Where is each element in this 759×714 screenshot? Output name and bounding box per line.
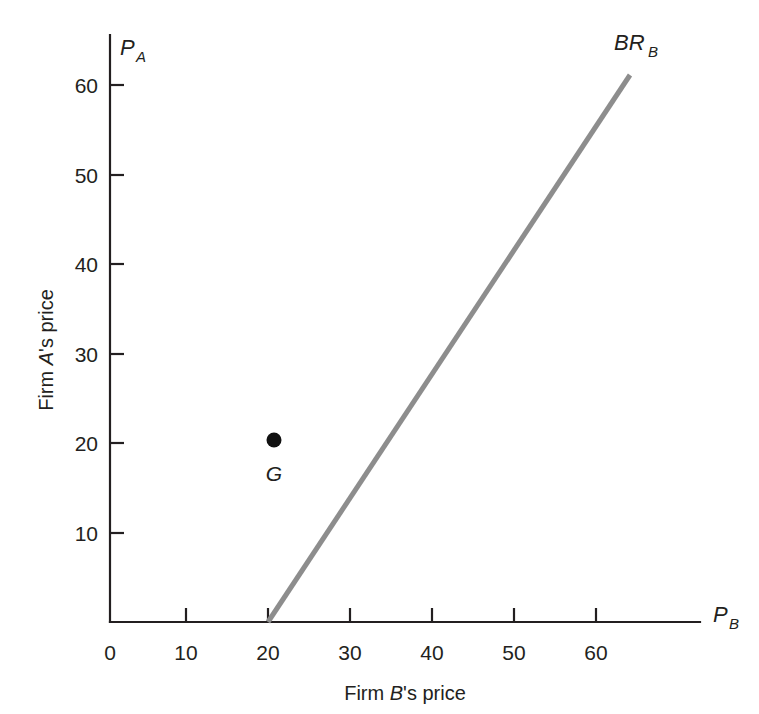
y-tick-label-30: 30	[75, 343, 98, 366]
br-b-curve	[268, 75, 630, 622]
x-tick-label-10: 10	[174, 641, 197, 664]
x-tick-label-60: 60	[584, 641, 607, 664]
x-axis-title-emphasis: B	[390, 682, 403, 704]
y-axis-ticks	[110, 85, 124, 533]
br-b-label-subscript: B	[648, 43, 658, 60]
svg-text:Firm A's price: Firm A's price	[35, 289, 57, 411]
x-axis-variable-subscript: B	[729, 615, 739, 632]
y-tick-label-10: 10	[75, 522, 98, 545]
point-g-label: G	[266, 462, 282, 485]
x-axis-title: Firm B's price	[344, 682, 466, 704]
chart-canvas: 60 50 40 30 20 10 0 10 20 30 40 50 60	[0, 0, 759, 714]
x-tick-label-20: 20	[256, 641, 279, 664]
x-axis-variable-label: P B	[713, 602, 739, 632]
x-axis-title-prefix: Firm	[344, 682, 390, 704]
x-tick-label-30: 30	[338, 641, 361, 664]
x-axis-tick-labels: 0 10 20 30 40 50 60	[104, 641, 608, 664]
x-axis-title-suffix: 's price	[403, 682, 466, 704]
x-axis-variable-symbol: P	[713, 602, 728, 627]
svg-text:Firm B's price: Firm B's price	[344, 682, 466, 704]
y-axis-title-prefix: Firm	[35, 365, 57, 411]
axis-group	[110, 35, 700, 622]
y-axis-title-suffix: 's price	[35, 289, 57, 352]
y-tick-label-50: 50	[75, 164, 98, 187]
br-b-label-main: BR	[614, 30, 645, 55]
y-axis-title-emphasis: A	[35, 352, 57, 366]
y-axis-variable-label: P A	[120, 35, 146, 65]
x-tick-label-0: 0	[104, 641, 116, 664]
y-tick-label-60: 60	[75, 74, 98, 97]
chart-figure: 60 50 40 30 20 10 0 10 20 30 40 50 60	[0, 0, 759, 714]
point-g-marker	[267, 433, 282, 448]
y-axis-variable-subscript: A	[135, 48, 146, 65]
y-axis-tick-labels: 60 50 40 30 20 10	[75, 74, 98, 545]
x-tick-label-40: 40	[420, 641, 443, 664]
y-axis-title: Firm A's price	[35, 289, 57, 411]
y-axis-variable-symbol: P	[120, 35, 135, 60]
y-tick-label-20: 20	[75, 432, 98, 455]
br-b-curve-label: BR B	[614, 30, 658, 60]
x-axis-ticks	[186, 608, 596, 622]
y-tick-label-40: 40	[75, 253, 98, 276]
x-tick-label-50: 50	[502, 641, 525, 664]
